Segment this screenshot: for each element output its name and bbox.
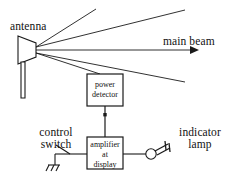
main-beam-label: main beam — [163, 35, 215, 47]
control-switch-label-line2: switch — [26, 138, 86, 150]
power-detector-label: power detector — [88, 80, 122, 100]
control-switch-label: control switch — [26, 126, 86, 150]
lamp-bulb — [146, 149, 156, 159]
horn-antenna-icon — [18, 36, 36, 98]
control-switch-label-line1: control — [26, 126, 86, 138]
antenna-beam-diagram: antenna main beam control switch indicat… — [0, 0, 231, 182]
indicator-lamp-label-line2: lamp — [170, 138, 230, 150]
antenna-mast — [21, 62, 25, 98]
ground-symbol-icon — [46, 165, 60, 171]
antenna-label: antenna — [10, 20, 46, 32]
main-beam-axis — [36, 46, 199, 54]
amplifier-display-label-line2: at — [88, 150, 122, 160]
lamp-glow-rays — [155, 141, 170, 155]
amplifier-display-label-line3: display — [88, 160, 122, 170]
detector-to-amplifier-link — [103, 106, 106, 137]
indicator-lamp-label-line1: indicator — [170, 126, 230, 138]
indicator-lamp-label: indicator lamp — [170, 126, 230, 150]
power-detector-label-line1: power — [88, 80, 122, 90]
indicator-lamp-icon[interactable] — [146, 141, 170, 159]
antenna-horn-body — [18, 36, 36, 64]
amplifier-display-label: amplifier at display — [88, 140, 122, 169]
arrow-right-icon — [190, 46, 199, 54]
power-detector-label-line2: detector — [88, 90, 122, 100]
amplifier-display-label-line1: amplifier — [88, 140, 122, 150]
wire-junction-dot — [103, 113, 106, 116]
